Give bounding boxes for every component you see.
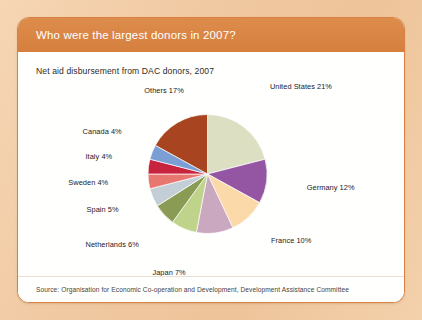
card-footer: Source: Organisation for Economic Co-ope… bbox=[18, 276, 404, 302]
pie-chart-svg bbox=[18, 52, 405, 278]
pie-slice-label: Others 17% bbox=[144, 87, 184, 94]
card-body: Net aid disbursement from DAC donors, 20… bbox=[18, 52, 404, 278]
pie-chart: United States 21%Germany 12%France 10%Un… bbox=[18, 52, 405, 278]
source-note: Source: Organisation for Economic Co-ope… bbox=[36, 286, 349, 293]
pie-slice-label: France 10% bbox=[271, 237, 311, 244]
pie-slice-label: Germany 12% bbox=[307, 184, 355, 191]
pie-slice-label: Sweden 4% bbox=[68, 179, 108, 186]
infographic-card: Who were the largest donors in 2007? Net… bbox=[17, 17, 405, 303]
pie-slice-label: Netherlands 6% bbox=[86, 241, 139, 248]
pie-slice-label: United States 21% bbox=[270, 83, 332, 90]
page-title: Who were the largest donors in 2007? bbox=[36, 29, 236, 41]
pie-slice-label: Canada 4% bbox=[83, 128, 122, 135]
pie-slice-label: Italy 4% bbox=[86, 153, 113, 160]
pie-slice-group bbox=[148, 115, 267, 234]
card-header: Who were the largest donors in 2007? bbox=[18, 18, 404, 52]
pie-slice-label: Spain 5% bbox=[87, 206, 119, 213]
